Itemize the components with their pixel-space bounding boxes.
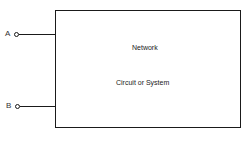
network-block <box>55 10 241 128</box>
terminal-b-label: B <box>6 101 11 110</box>
terminal-a-label: A <box>5 29 10 38</box>
block-title: Network <box>132 44 158 51</box>
block-subtitle: Circuit or System <box>116 79 169 86</box>
terminal-b-wire <box>20 106 56 107</box>
terminal-a-wire <box>19 34 56 35</box>
